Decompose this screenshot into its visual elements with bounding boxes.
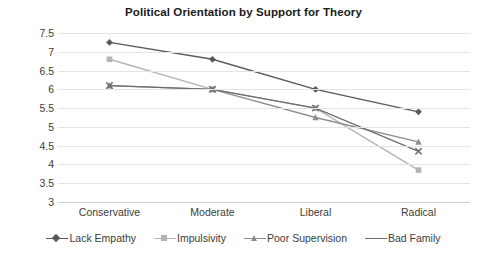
series-line [110, 59, 419, 170]
legend-marker-square-icon [154, 233, 176, 243]
series-line [110, 86, 419, 142]
y-tick-label: 3.5 [4, 177, 54, 189]
gridline [58, 52, 470, 53]
gridline [58, 71, 470, 72]
y-tick-label: 5 [4, 121, 54, 133]
data-point-x [415, 148, 421, 154]
gridline [58, 33, 470, 34]
legend-item[interactable]: Bad Family [365, 232, 441, 244]
y-axis-tick-labels: 7.576.565.554.543.53 [0, 33, 54, 202]
y-tick-label: 5.5 [4, 102, 54, 114]
legend-marker-triangle-icon [244, 233, 266, 243]
data-point-diamond [106, 39, 113, 46]
gridline [58, 108, 470, 109]
chart-legend: Lack EmpathyImpulsivityPoor SupervisionB… [0, 232, 487, 244]
y-tick-label: 6.5 [4, 65, 54, 77]
gridline [58, 127, 470, 128]
plot-area [58, 33, 470, 202]
y-tick-label: 3 [4, 196, 54, 208]
x-tick-label: Radical [401, 206, 436, 218]
data-point-diamond [415, 108, 422, 115]
y-tick-label: 7 [4, 46, 54, 58]
legend-label: Impulsivity [177, 232, 226, 244]
legend-marker-diamond-icon [46, 233, 68, 243]
data-point-square [107, 56, 113, 62]
legend-item[interactable]: Lack Empathy [46, 232, 136, 244]
gridline [58, 183, 470, 184]
legend-label: Lack Empathy [69, 232, 136, 244]
x-tick-label: Liberal [300, 206, 332, 218]
gridline [58, 164, 470, 165]
legend-marker-x-icon [365, 233, 387, 243]
legend-label: Poor Supervision [267, 232, 347, 244]
gridline [58, 146, 470, 147]
y-tick-label: 4.5 [4, 140, 54, 152]
x-axis-tick-labels: ConservativeModerateLiberalRadical [58, 206, 470, 226]
y-tick-label: 7.5 [4, 27, 54, 39]
legend-label: Bad Family [388, 232, 441, 244]
gridline [58, 89, 470, 90]
series-lines [58, 33, 470, 202]
data-point-diamond [209, 56, 216, 63]
x-tick-label: Conservative [79, 206, 140, 218]
series-line [110, 42, 419, 111]
chart-title: Political Orientation by Support for The… [0, 6, 487, 18]
x-tick-label: Moderate [190, 206, 234, 218]
legend-item[interactable]: Impulsivity [154, 232, 226, 244]
y-tick-label: 6 [4, 83, 54, 95]
legend-item[interactable]: Poor Supervision [244, 232, 347, 244]
gridline [58, 202, 470, 203]
data-point-square [416, 167, 422, 173]
chart-screenshot: Political Orientation by Support for The… [0, 0, 487, 260]
y-tick-label: 4 [4, 158, 54, 170]
